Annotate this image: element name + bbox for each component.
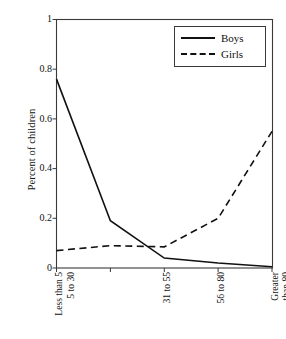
x-tick-label-56-to-80: 56 to 80	[216, 272, 227, 339]
line-chart-figure: Percent of children 1 0.8 0.6 0.4 0.2 0	[0, 0, 286, 339]
chart-legend: Boys Girls	[174, 26, 266, 67]
legend-entry-girls: Girls	[179, 46, 261, 62]
legend-label-girls: Girls	[217, 48, 243, 60]
legend-solid-line-icon	[179, 32, 217, 44]
legend-label-boys: Boys	[217, 32, 244, 44]
legend-entry-boys: Boys	[179, 30, 261, 46]
x-tick-label-less-than-5: Less than 5	[54, 272, 65, 339]
x-tick-label-5-to-30: 5 to 30	[66, 272, 77, 339]
legend-dashed-line-icon	[179, 48, 217, 60]
x-tick-label-31-to-55: 31 to 55	[162, 272, 173, 339]
x-tick-label-greater-than-80: Greater than 80	[270, 272, 286, 339]
